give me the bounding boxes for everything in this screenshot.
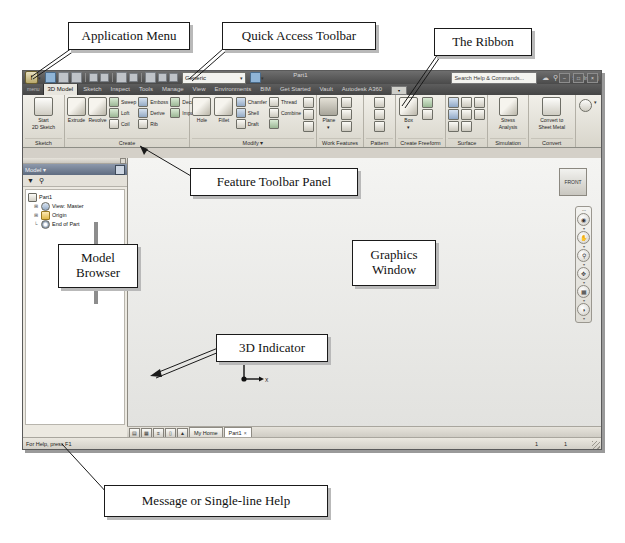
boundary-patch-icon[interactable] (474, 109, 485, 120)
share-icon[interactable]: ⚲ (553, 74, 558, 82)
doc-tab-part1-close-icon[interactable]: × (244, 430, 247, 436)
mirror-icon[interactable] (374, 121, 385, 132)
nav-grip-icon[interactable]: ⋯ (582, 209, 586, 212)
zoom-caret-icon[interactable]: ▾ (583, 263, 585, 266)
tab-view[interactable]: View (189, 84, 210, 95)
tree-node-part1[interactable]: Part1 (28, 193, 122, 202)
expander-view-master-icon[interactable]: ⊞ (34, 202, 39, 211)
explore-caret-icon[interactable]: ▾ (594, 99, 597, 105)
tab-autodesk-a360[interactable]: Autodesk A360 (338, 84, 386, 95)
update-icon[interactable] (145, 72, 156, 83)
tab-vault[interactable]: Vault (316, 84, 337, 95)
steering-wheel-caret-icon[interactable]: ▾ (583, 227, 585, 230)
filter-icon[interactable]: ▼ (27, 177, 34, 184)
work-axis-icon[interactable] (341, 97, 352, 108)
tab-3d-model[interactable]: 3D Model (43, 83, 79, 95)
direct-edit-icon[interactable] (303, 109, 314, 120)
undo-icon[interactable] (89, 73, 98, 82)
freeform-convert-icon[interactable] (422, 109, 433, 120)
sweep-button[interactable]: Sweep (109, 97, 136, 107)
plane-button[interactable]: Plane ▾ (319, 97, 339, 130)
pin-icon[interactable] (115, 165, 125, 175)
a360-icon[interactable]: ☁ (542, 74, 549, 82)
zoom-icon[interactable]: ⚲ (577, 249, 590, 262)
steering-wheel-icon[interactable]: ◉ (577, 213, 590, 226)
chamfer-button[interactable]: Chamfer (236, 97, 267, 107)
view-layout-1-icon[interactable]: ▤ (129, 428, 140, 438)
derive-button[interactable]: Derive (138, 108, 168, 118)
orbit-caret-icon[interactable]: ▾ (583, 281, 585, 284)
search-input[interactable]: Search Help & Commands... (451, 72, 537, 84)
appearance-caret-icon[interactable]: ▾ (261, 75, 264, 81)
pan-icon[interactable]: ✋ (577, 231, 590, 244)
view-style-caret-icon[interactable]: ▾ (583, 317, 585, 320)
select-icon[interactable] (158, 73, 167, 82)
view-layout-3-icon[interactable]: ≡ (153, 428, 164, 438)
tab-get-started[interactable]: Get Started (276, 84, 315, 95)
home-icon[interactable] (116, 72, 127, 83)
look-at-caret-icon[interactable]: ▾ (583, 299, 585, 302)
ucs-icon[interactable] (341, 121, 352, 132)
rib-button[interactable]: Rib (138, 119, 168, 129)
view-layout-4-icon[interactable]: ▯ (165, 428, 176, 438)
patch-icon[interactable] (448, 121, 459, 132)
maximize-button[interactable]: □ (573, 73, 584, 83)
look-at-icon[interactable]: ▦ (577, 285, 590, 298)
tree-node-origin[interactable]: ⊞ Origin (28, 211, 122, 220)
orbit-icon[interactable]: ✥ (577, 267, 590, 280)
rectangular-pattern-icon[interactable] (374, 97, 385, 108)
tree-node-end-of-part[interactable]: └ End of Part (28, 220, 122, 229)
view-layout-2-icon[interactable]: ▦ (141, 428, 152, 438)
fillet-button[interactable]: Fillet (214, 97, 234, 123)
minimize-button[interactable]: – (559, 73, 570, 83)
work-point-icon[interactable] (341, 109, 352, 120)
trim-icon[interactable] (461, 97, 472, 108)
material-swatch-icon[interactable] (169, 73, 178, 82)
thread-button[interactable]: Thread (269, 97, 301, 107)
combine-button[interactable]: Combine (269, 108, 301, 118)
extend-icon[interactable] (461, 109, 472, 120)
emboss-button[interactable]: Emboss (138, 97, 168, 107)
loft-button[interactable]: Loft (109, 108, 136, 118)
tab-sketch[interactable]: Sketch (79, 84, 105, 95)
sculpt-icon[interactable] (448, 109, 459, 120)
browser-horizontal-scrollbar[interactable] (23, 158, 127, 164)
shell-button[interactable]: Shell (236, 108, 267, 118)
coil-button[interactable]: Coil (109, 119, 136, 129)
tab-scroll-up-icon[interactable]: ▲ (177, 428, 188, 438)
draft-button[interactable]: Draft (236, 119, 267, 129)
convert-to-sheet-metal-button[interactable]: Convert to Sheet Metal (532, 97, 572, 130)
graphics-window[interactable]: FRONT ⋯ ◉ ▾ ✋ ▾ ⚲ ▾ ✥ ▾ ▦ ▾ ◑ ▾ (128, 158, 601, 427)
pan-caret-icon[interactable]: ▾ (583, 245, 585, 248)
tree-node-view-master[interactable]: ⊞ View: Master (28, 202, 122, 211)
tab-environments[interactable]: Environments (211, 84, 256, 95)
split-icon[interactable] (303, 97, 314, 108)
ribbon-menu-label[interactable]: menu (25, 84, 42, 95)
ruled-surface-icon[interactable] (474, 97, 485, 108)
return-icon[interactable] (129, 73, 138, 82)
resize-grip-icon[interactable] (592, 441, 600, 449)
replace-face-icon[interactable] (461, 121, 472, 132)
start-2d-sketch-button[interactable]: Start 2D Sketch (28, 97, 58, 130)
extrude-button[interactable]: Extrude (67, 97, 86, 123)
view-style-icon[interactable]: ◑ (577, 303, 590, 316)
delete-face-icon[interactable] (303, 121, 314, 132)
expander-origin-icon[interactable]: ⊞ (34, 211, 39, 220)
explore-icon[interactable] (579, 99, 592, 112)
tab-bim[interactable]: BIM (256, 84, 275, 95)
tab-manage[interactable]: Manage (158, 84, 188, 95)
view-cube[interactable]: FRONT (559, 168, 587, 196)
revolve-button[interactable]: Revolve (88, 97, 107, 123)
model-browser-header[interactable]: Model ▾ (23, 164, 127, 175)
hole-button[interactable]: Hole (192, 97, 212, 123)
appearance-icon[interactable] (250, 72, 261, 83)
redo-icon[interactable] (100, 73, 109, 82)
tab-tools[interactable]: Tools (135, 84, 157, 95)
stress-analysis-button[interactable]: Stress Analysis (493, 97, 523, 130)
thicken-offset-button[interactable] (269, 119, 301, 129)
close-button[interactable]: × (587, 73, 598, 83)
circular-pattern-icon[interactable] (374, 109, 385, 120)
stitch-icon[interactable] (448, 97, 459, 108)
search-icon[interactable]: ⚲ (39, 177, 44, 185)
tab-inspect[interactable]: Inspect (107, 84, 134, 95)
